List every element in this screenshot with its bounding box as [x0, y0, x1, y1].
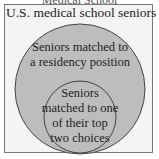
inner-label-line-1: Seniors: [40, 86, 120, 101]
outer-label-line-2: a residency position: [15, 55, 145, 70]
inner-label-line-3: of their top: [40, 116, 120, 131]
inner-label-line-4: two choices: [40, 131, 120, 146]
outer-set-label: Seniors matched to a residency position: [15, 40, 145, 70]
inner-set-label: Seniors matched to one of their top two …: [40, 86, 120, 146]
inner-label-line-2: matched to one: [40, 101, 120, 116]
outer-label-line-1: Seniors matched to: [15, 40, 145, 55]
